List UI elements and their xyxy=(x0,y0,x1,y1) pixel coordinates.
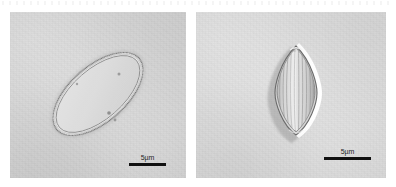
specimen-granule-left-2 xyxy=(76,83,78,85)
micrograph-panel-left[interactable]: 5µm xyxy=(10,12,186,178)
micrograph-panel-right[interactable]: 5µm xyxy=(196,12,386,178)
scale-bar-label-right: 5µm xyxy=(341,148,354,156)
scale-bar-label-left: 5µm xyxy=(141,154,154,162)
scale-bar-left: 5µm xyxy=(129,154,166,166)
figure-root: 5µm xyxy=(0,0,396,187)
specimen-granule-left-3 xyxy=(107,111,111,115)
specimen-elliptical-frustule-drawing xyxy=(39,35,157,153)
scale-bar-rule-left xyxy=(129,163,166,166)
specimen-granule-left-1 xyxy=(118,73,121,76)
scale-bar-right: 5µm xyxy=(324,148,371,160)
specimen-granule-left-4 xyxy=(114,119,117,122)
scale-bar-rule-right xyxy=(324,157,371,160)
specimen-elliptical-frustule[interactable] xyxy=(39,35,157,153)
specimen-lenticular-frustule[interactable] xyxy=(244,34,348,146)
scan-artifact-strip xyxy=(2,1,392,5)
specimen-lenticular-frustule-drawing xyxy=(244,34,348,146)
